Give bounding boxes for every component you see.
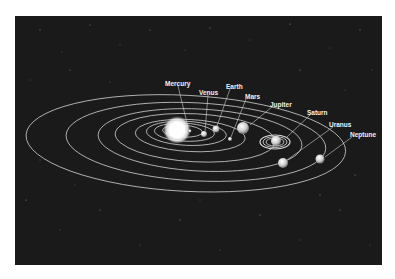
sun — [163, 116, 191, 144]
planet-jupiter — [237, 122, 249, 134]
planet-mercury — [189, 130, 192, 133]
orbits — [24, 87, 349, 200]
label-mercury: Mercury — [165, 80, 191, 88]
orbit-uranus — [64, 96, 328, 188]
label-neptune: Neptune — [350, 131, 376, 139]
label-earth: Earth — [226, 83, 243, 90]
orbit-mars — [134, 117, 246, 155]
label-saturn: Saturn — [307, 109, 328, 116]
solar-system-diagram: Mercury Venus Earth Mars Jupiter Saturn … — [0, 0, 395, 279]
planet-uranus — [278, 158, 288, 168]
planet-saturn — [260, 135, 290, 149]
label-venus: Venus — [199, 89, 219, 96]
label-uranus: Uranus — [329, 121, 352, 128]
planet-mars — [228, 137, 232, 141]
planet-neptune — [316, 155, 325, 164]
planet-labels: Mercury Venus Earth Mars Jupiter Saturn … — [165, 80, 376, 139]
label-mars: Mars — [245, 93, 261, 100]
orbit-neptune — [24, 87, 349, 200]
planet-venus — [201, 131, 207, 137]
label-jupiter: Jupiter — [270, 101, 292, 109]
orbit-jupiter — [114, 110, 276, 166]
planets — [189, 122, 325, 168]
planet-earth — [213, 126, 220, 133]
